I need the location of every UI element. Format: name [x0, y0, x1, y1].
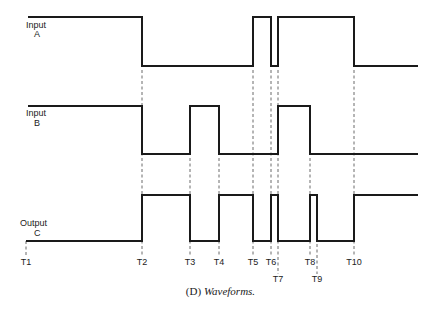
caption-prefix: (D): [186, 285, 201, 297]
waveforms: [26, 17, 418, 241]
time-label-t3: T3: [185, 257, 196, 267]
caption-text: Waveforms.: [204, 285, 255, 297]
waveform-c: [26, 195, 418, 241]
time-label-t4: T4: [214, 257, 225, 267]
waveform-a: [28, 17, 418, 66]
signal-b-label-line1: Input: [26, 108, 47, 118]
figure-caption: (D) Waveforms.: [0, 285, 441, 297]
time-label-t1: T1: [21, 257, 32, 267]
signal-labels: Input A Input B Output C: [20, 20, 48, 238]
time-label-t2: T2: [137, 257, 148, 267]
time-marker-labels: T1T2T3T4T5T6T7T8T9T10: [21, 257, 362, 284]
time-label-t10: T10: [346, 257, 362, 267]
time-label-t9: T9: [312, 274, 323, 284]
signal-b-label-line2: B: [34, 118, 40, 128]
time-label-t7: T7: [273, 274, 284, 284]
time-label-t5: T5: [248, 257, 259, 267]
time-marker-guides: [26, 70, 354, 274]
waveform-b: [28, 106, 418, 154]
time-label-t6: T6: [266, 257, 277, 267]
signal-c-label-line2: C: [34, 228, 41, 238]
waveform-diagram: Input A Input B Output C T1T2T3T4T5T6T7T…: [0, 0, 441, 317]
signal-a-label-line2: A: [34, 29, 40, 39]
time-label-t8: T8: [305, 257, 316, 267]
signal-c-label-line1: Output: [20, 218, 48, 228]
